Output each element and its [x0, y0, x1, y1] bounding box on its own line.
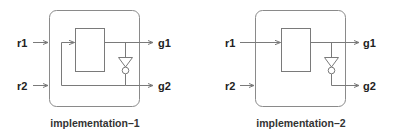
diagram-canvas: r1 r2 g1 g2 implementation–1 r1 r2 g1: [0, 0, 394, 137]
outer-module-box: [256, 11, 346, 107]
input-label-r2: r2: [225, 80, 235, 92]
caption-implementation-1: implementation–1: [50, 117, 139, 129]
input-label-r1: r1: [17, 37, 27, 49]
implementation-1: r1 r2 g1 g2 implementation–1: [17, 11, 171, 130]
outer-module-box: [50, 11, 140, 107]
implementation-2: r1 r2 g1 g2 implementation–2: [225, 11, 376, 130]
output-label-g1: g1: [158, 37, 171, 49]
output-label-g2: g2: [158, 80, 171, 92]
input-label-r2: r2: [17, 80, 27, 92]
caption-implementation-2: implementation–2: [256, 117, 345, 129]
input-label-r1: r1: [225, 37, 235, 49]
output-label-g2: g2: [363, 80, 376, 92]
output-label-g1: g1: [363, 37, 376, 49]
